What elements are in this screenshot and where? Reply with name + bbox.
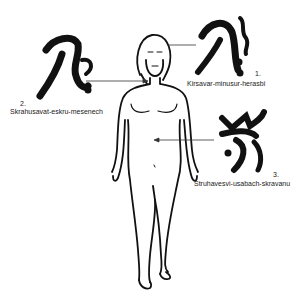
rune-symbol-3 xyxy=(222,112,264,170)
label-2-number: 2. xyxy=(20,100,26,107)
label-3-number: 3. xyxy=(273,171,279,178)
connector-lines xyxy=(86,45,214,142)
female-figure xyxy=(112,35,198,289)
label-3-text: Struhavesvi-usabach-skravanu xyxy=(194,180,290,187)
label-1-text: Kirsavar-minusur-herasbi xyxy=(187,80,265,87)
rune-symbol-1 xyxy=(198,18,247,77)
diagram xyxy=(0,0,304,295)
rune-symbol-2 xyxy=(40,38,92,96)
label-1-number: 1. xyxy=(255,70,261,77)
label-2-text: Skrahusavat-eskru-mesenech xyxy=(10,108,103,115)
